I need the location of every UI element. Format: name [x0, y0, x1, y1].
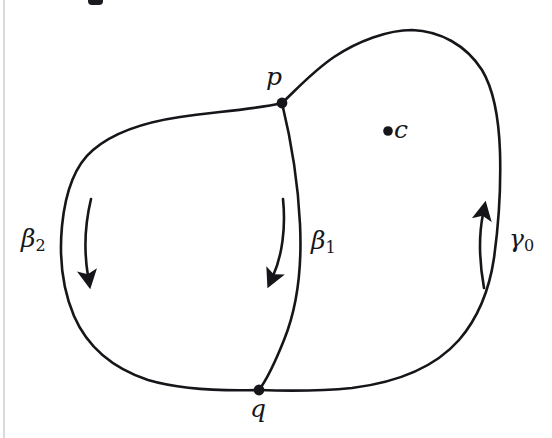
point-p-dot	[277, 98, 288, 109]
curve-label-beta2-base: β	[21, 224, 35, 253]
curve-label-beta1-subscript: 1	[325, 238, 335, 257]
curve-label-beta1-base: β	[311, 226, 325, 255]
curve-label-beta1: β1	[311, 228, 336, 256]
curve-label-gamma0-base: γ	[509, 224, 524, 253]
point-label-q: q	[250, 396, 266, 421]
curve-label-gamma0-subscript: 0	[524, 236, 534, 255]
curve-gamma0	[259, 30, 500, 391]
point-c-dot	[383, 126, 393, 136]
point-label-c: c	[394, 117, 408, 142]
point-label-p: p	[266, 64, 282, 89]
curve-label-beta2: β2	[21, 226, 46, 254]
arrow-beta2	[86, 199, 91, 276]
topology-figure: p q c β2 β1 γ0	[0, 0, 552, 438]
arrow-beta1	[273, 199, 284, 276]
curve-label-gamma0: γ0	[509, 226, 534, 254]
curve-label-beta2-subscript: 2	[35, 236, 45, 255]
curve-beta1	[259, 103, 300, 390]
arrow-gamma0	[480, 214, 484, 288]
curve-beta2	[61, 103, 282, 390]
